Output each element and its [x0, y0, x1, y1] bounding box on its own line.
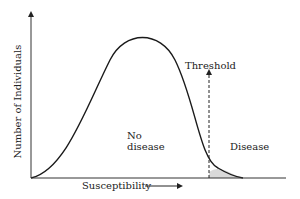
distribution-diagram	[0, 0, 300, 199]
no-disease-label: No disease	[127, 130, 165, 152]
bell-curve	[31, 38, 243, 179]
no-disease-line1: No	[127, 130, 165, 141]
x-axis-label: Susceptibility	[82, 180, 151, 191]
y-axis-label: Number of Individuals	[12, 49, 23, 159]
threshold-label: Threshold	[185, 60, 236, 71]
no-disease-line2: disease	[127, 141, 165, 152]
disease-label: Disease	[230, 141, 269, 152]
